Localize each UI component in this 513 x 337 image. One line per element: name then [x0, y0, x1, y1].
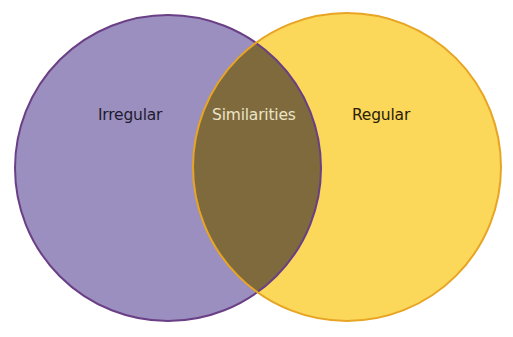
label-irregular: Irregular	[98, 106, 162, 124]
label-regular: Regular	[352, 106, 410, 124]
venn-diagram	[0, 0, 513, 337]
label-similarities: Similarities	[212, 106, 296, 124]
